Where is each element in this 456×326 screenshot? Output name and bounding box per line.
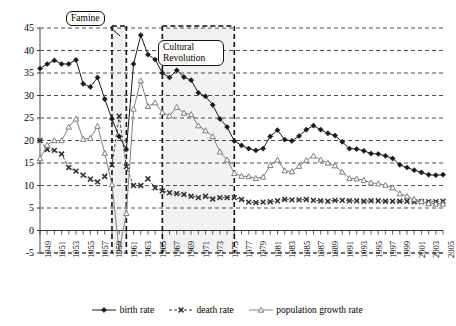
data-point — [102, 174, 107, 179]
x-tick-label: 2003 — [432, 241, 441, 258]
series-line — [40, 81, 443, 252]
data-point — [440, 201, 445, 206]
legend-marker-open-triangle — [248, 304, 274, 316]
data-point — [138, 78, 143, 83]
data-point — [88, 135, 93, 140]
data-point — [37, 66, 42, 71]
data-point — [59, 152, 64, 157]
x-tick-label: 1991 — [346, 241, 355, 258]
data-point — [52, 58, 57, 63]
data-point — [361, 177, 366, 182]
data-point — [246, 146, 251, 151]
x-tick-label: 1995 — [375, 241, 384, 258]
data-point — [361, 148, 366, 153]
data-point — [253, 148, 258, 153]
legend-label: population growth rate — [274, 305, 363, 315]
data-point — [383, 153, 388, 158]
data-point — [153, 185, 158, 190]
x-tick-label: 1975 — [231, 241, 240, 258]
data-point — [88, 177, 93, 182]
data-point — [311, 123, 316, 128]
data-point — [325, 131, 330, 136]
x-tick-label: 2001 — [418, 241, 427, 258]
series-line — [40, 116, 443, 202]
data-point — [246, 200, 251, 205]
data-point — [81, 173, 86, 178]
x-tick-label: 1973 — [216, 241, 225, 258]
x-tick-label: 1983 — [288, 241, 297, 258]
y-tick-label: 30 — [8, 91, 34, 101]
data-point — [102, 150, 107, 155]
data-point — [59, 61, 64, 66]
data-point — [95, 180, 100, 185]
data-point — [390, 199, 395, 204]
data-point — [131, 61, 136, 66]
y-tick-label: 25 — [8, 113, 34, 123]
data-point — [376, 151, 381, 156]
legend-label: death rate — [194, 305, 234, 315]
data-point — [145, 104, 150, 109]
y-tick-label: 0 — [8, 226, 34, 236]
x-tick-label: 2005 — [447, 241, 456, 258]
data-point — [440, 172, 445, 177]
data-point — [95, 123, 100, 128]
data-point — [354, 146, 359, 151]
legend-label: birth rate — [117, 305, 154, 315]
data-point — [426, 172, 431, 177]
data-point — [253, 176, 258, 181]
y-tick-label: -5 — [8, 248, 34, 258]
data-point — [304, 158, 309, 163]
y-tick-label: 10 — [8, 181, 34, 191]
x-tick-label: 1989 — [331, 241, 340, 258]
data-point — [354, 176, 359, 181]
data-point — [80, 136, 85, 141]
x-tick-label: 1985 — [303, 241, 312, 258]
series-population-growth-rate — [37, 78, 445, 254]
data-point — [289, 169, 294, 174]
data-point — [404, 194, 409, 199]
chart-legend: birth rate death rate population growth … — [0, 304, 454, 316]
data-point — [412, 196, 417, 201]
legend-marker-x — [168, 304, 194, 316]
x-tick-label: 1977 — [245, 241, 254, 258]
y-tick-label: 40 — [8, 46, 34, 56]
data-point — [37, 156, 42, 161]
data-point — [332, 163, 337, 168]
data-point — [419, 170, 424, 175]
data-point — [73, 57, 78, 62]
data-point — [131, 106, 136, 111]
data-point — [45, 61, 50, 66]
data-point — [318, 127, 323, 132]
x-tick-label: 1951 — [58, 241, 67, 258]
data-point — [260, 146, 265, 151]
data-point — [275, 157, 280, 162]
data-point — [325, 160, 330, 165]
data-point — [239, 173, 244, 178]
data-point — [376, 181, 381, 186]
data-point — [66, 165, 71, 170]
data-point — [260, 174, 265, 179]
x-tick-label: 1957 — [101, 241, 110, 258]
data-point — [74, 169, 79, 174]
legend-item-birth-rate: birth rate — [91, 304, 154, 316]
data-point — [44, 142, 49, 147]
data-point — [52, 138, 57, 143]
data-point — [152, 100, 157, 105]
data-point — [239, 143, 244, 148]
y-tick-label: 15 — [8, 158, 34, 168]
legend-item-population-growth-rate: population growth rate — [248, 304, 363, 316]
y-tick-label: 20 — [8, 136, 34, 146]
annotation-cultural-revolution-callout: Cultural Revolution — [158, 40, 224, 66]
data-point — [102, 97, 107, 102]
x-tick-label: 1987 — [317, 241, 326, 258]
y-tick-label: 5 — [8, 203, 34, 213]
data-point — [66, 61, 71, 66]
x-tick-label: 1969 — [187, 241, 196, 258]
x-tick-label: 1981 — [274, 241, 283, 258]
x-tick-label: 1949 — [44, 241, 53, 258]
series-birth-rate — [37, 33, 445, 178]
x-tick-label: 1979 — [259, 241, 268, 258]
data-point — [433, 173, 438, 178]
